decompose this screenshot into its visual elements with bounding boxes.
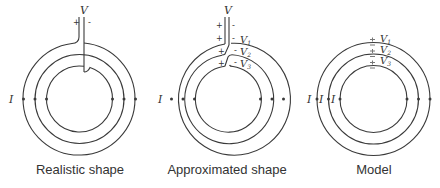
realistic-shape-panel: V + - I: [8, 4, 137, 155]
voltage-label: V: [224, 4, 233, 17]
current-label: I: [8, 93, 14, 106]
svg-text:+: +: [216, 21, 223, 30]
plus-sign: +: [73, 18, 80, 27]
v1-label: V1: [240, 34, 251, 46]
svg-text:+: +: [218, 59, 225, 68]
v2-label: V2: [240, 46, 251, 58]
current-markers: [22, 98, 137, 101]
caption-realistic: Realistic shape: [36, 162, 124, 177]
minus-signs: - - - -: [232, 21, 237, 67]
voltage-label: V: [80, 4, 89, 17]
current-label: I: [157, 93, 163, 106]
current-markers: [170, 98, 285, 101]
svg-text:+: +: [218, 47, 225, 56]
minus-sign: -: [88, 18, 91, 27]
inner-turn: [195, 65, 261, 132]
current-label-outer: I: [306, 93, 312, 106]
diagram-canvas: V + - I V: [0, 0, 440, 188]
svg-text:-: -: [234, 58, 237, 67]
current-label-middle: I: [318, 93, 324, 106]
svg-text:+: +: [216, 34, 223, 43]
inner-turn: [47, 66, 113, 132]
inner-loop: [340, 66, 407, 133]
outer-turn: [23, 17, 135, 155]
svg-text:-: -: [232, 21, 235, 30]
model-panel: V1 V2 V3 I I I: [306, 33, 432, 156]
middle-turn: [35, 55, 124, 144]
approximated-shape-panel: V + + + + - - - - V1 V2 V3 I: [157, 4, 290, 155]
spiral-coil-diagram: V + - I V: [0, 0, 440, 188]
current-label-inner: I: [330, 93, 336, 106]
caption-model: Model: [356, 162, 391, 177]
svg-text:-: -: [232, 34, 235, 43]
caption-approximated: Approximated shape: [167, 162, 286, 177]
svg-text:-: -: [234, 46, 237, 55]
